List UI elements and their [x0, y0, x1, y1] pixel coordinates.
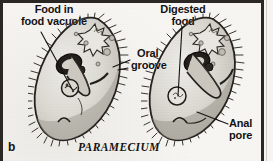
frame-right-border — [261, 0, 264, 161]
leader-oral-groove-right — [118, 68, 128, 70]
label-anal-pore: Anal pore — [229, 118, 252, 141]
label-oral-groove: Oral groove — [131, 48, 167, 71]
label-digested-line2: food — [150, 16, 216, 28]
frame-right-hairline — [266, 0, 267, 161]
label-food-in-food-vacuole: Food in food vacuole — [12, 4, 96, 27]
paramecium-figure: Food in food vacuole Digested food Oral … — [0, 0, 273, 161]
figure-part-letter: b — [8, 140, 15, 154]
leader-food-vacuole — [41, 32, 72, 89]
frame-top-border — [0, 0, 264, 3]
leader-digested-food — [178, 27, 182, 96]
label-food-line2: food vacuole — [12, 16, 96, 28]
leader-anal-pore — [197, 112, 228, 124]
label-digested-food: Digested food — [150, 4, 216, 27]
leader-oral-groove-left — [113, 60, 130, 67]
label-anal-line2: pore — [229, 130, 252, 142]
label-oral-line1: Oral — [131, 48, 167, 60]
label-anal-line1: Anal — [229, 118, 252, 130]
label-food-line1: Food in — [12, 4, 96, 16]
label-digested-line1: Digested — [150, 4, 216, 16]
figure-organism-name: PARAMECIUM — [78, 141, 160, 153]
frame-left-border — [0, 0, 3, 161]
label-oral-line2: groove — [131, 60, 167, 72]
